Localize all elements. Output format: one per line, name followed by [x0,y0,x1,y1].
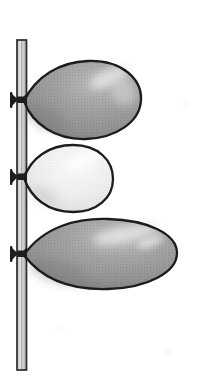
vertical-rod [17,40,27,370]
illustration-canvas [0,0,202,387]
figure-illustration: Three balloon structures attached to a v… [0,0,202,387]
